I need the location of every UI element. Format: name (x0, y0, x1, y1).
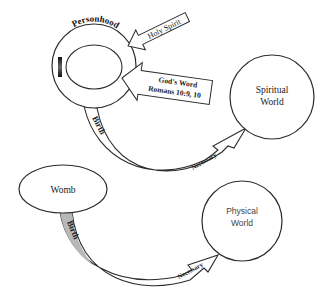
womb-label: Womb (50, 185, 75, 195)
personhood-inner-ellipse (66, 45, 122, 89)
i-symbol (58, 57, 62, 77)
diagram-canvas: Birth Necessary Personhood Holy Spirit G… (0, 0, 332, 306)
spiritual-world-node: Spiritual World (230, 55, 314, 139)
curved-arrow (60, 212, 218, 286)
connector-personhood-to-spiritual: Birth Necessary (84, 106, 246, 171)
holy-spirit-arrow: Holy Spirit (123, 7, 192, 56)
curved-arrow (84, 106, 246, 171)
spiritual-world-label-line2: World (260, 97, 284, 107)
physical-world-label-line1: Physical (226, 206, 258, 216)
personhood-node: Personhood (52, 13, 136, 108)
necessary-label: Necessary (190, 151, 218, 171)
womb-node: Womb (19, 165, 107, 213)
spiritual-world-label-line1: Spiritual (256, 85, 289, 95)
physical-world-label-line2: World (231, 218, 253, 228)
physical-world-node: Physical World (202, 181, 282, 261)
connector-womb-to-physical: Birth Necessary (60, 212, 218, 286)
